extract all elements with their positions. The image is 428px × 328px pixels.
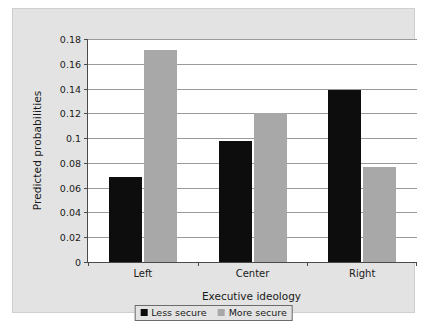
y-tick-mark [84,138,88,139]
bar-center-more-secure [254,113,287,262]
gridline [88,113,417,114]
x-tick-mark [88,262,89,266]
x-tick-label-right: Right [349,268,375,279]
gridline [88,64,417,65]
bar-left-less-secure [109,177,142,262]
bar-left-more-secure [144,50,177,262]
y-tick-mark [84,237,88,238]
gridline [88,163,417,164]
chart-legend: Less secure More secure [134,305,293,321]
y-tick-mark [84,64,88,65]
gridline [88,89,417,90]
y-tick-label: 0.12 [60,108,81,119]
y-tick-label: 0.02 [60,232,81,243]
legend-swatch-icon-more-secure [218,309,225,316]
y-tick-label: 0.08 [60,157,81,168]
y-tick-label: 0.06 [60,182,81,193]
y-axis-label: Predicted probabilities [31,39,45,262]
x-tick-mark [307,262,308,266]
bar-center-less-secure [219,141,252,262]
legend-label-less-secure: Less secure [151,307,206,318]
y-tick-mark [84,113,88,114]
y-tick-label: 0.1 [66,133,81,144]
gridline [88,138,417,139]
y-tick-label: 0.14 [60,83,81,94]
chart-figure: Predicted probabilities 00.020.040.060.0… [0,0,428,328]
legend-label-more-secure: More secure [229,307,287,318]
legend-item-less-secure: Less secure [140,307,206,318]
y-tick-mark [84,212,88,213]
x-axis-label: Executive ideology [87,290,416,302]
y-tick-mark [84,163,88,164]
y-tick-label: 0.04 [60,207,81,218]
x-tick-label-left: Left [133,268,152,279]
bar-right-more-secure [363,167,396,262]
x-tick-mark [416,262,417,266]
legend-item-more-secure: More secure [218,307,287,318]
plot-area: 00.020.040.060.080.10.120.140.160.18Left… [87,39,417,263]
bar-right-less-secure [328,90,361,262]
y-tick-mark [84,39,88,40]
x-tick-mark [198,262,199,266]
legend-swatch-icon-less-secure [140,309,147,316]
y-tick-label: 0.18 [60,34,81,45]
gridline [88,39,417,40]
y-tick-mark [84,89,88,90]
chart-panel: Predicted probabilities 00.020.040.060.0… [12,8,415,313]
x-tick-label-center: Center [236,268,270,279]
y-tick-mark [84,188,88,189]
y-tick-label: 0.16 [60,58,81,69]
y-tick-label: 0 [75,257,81,268]
